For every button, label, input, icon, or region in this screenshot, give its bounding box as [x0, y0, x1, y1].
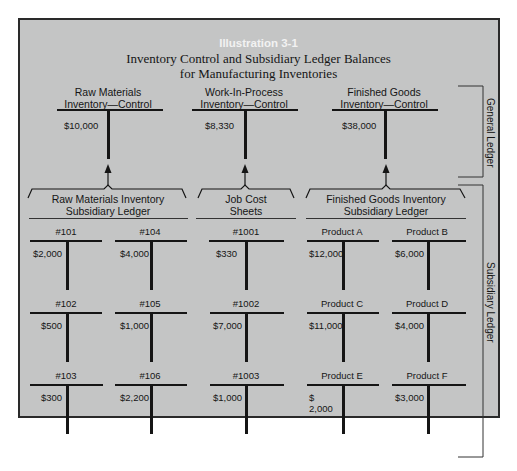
account-balance: $12,000	[309, 248, 343, 259]
t-account-stem	[66, 240, 69, 290]
t-account-stem	[150, 312, 153, 362]
t-account-stem	[150, 240, 153, 290]
account-balance: $2,000	[33, 248, 62, 259]
t-account-stem	[245, 240, 248, 290]
account-name: #104	[110, 226, 190, 237]
account-name: Product E	[302, 370, 382, 381]
account-balance: $2,200	[120, 392, 149, 403]
account-balance: $7,000	[213, 320, 242, 331]
account-balance: $330	[216, 248, 237, 259]
account-balance: $500	[41, 320, 62, 331]
t-account-stem	[66, 312, 69, 362]
t-account-stem	[427, 240, 430, 290]
subsidiary-ledger-label: Subsidiary Ledger	[485, 262, 496, 343]
account-name: #1003	[206, 370, 286, 381]
account-name: #103	[26, 370, 106, 381]
group-divider	[306, 218, 466, 219]
general-ledger-label: General Ledger	[485, 98, 496, 168]
account-balance: $300	[41, 392, 62, 403]
account-name: #1002	[206, 298, 286, 309]
account-name: #106	[110, 370, 190, 381]
t-account-stem	[427, 384, 430, 434]
account-name: Product D	[387, 298, 467, 309]
subsidiary-group-finished-goods: Finished Goods InventorySubsidiary Ledge…	[306, 193, 466, 217]
group-divider	[29, 218, 188, 219]
account-balance: $3,000	[395, 392, 424, 403]
account-name: #102	[26, 298, 106, 309]
account-balance: $1,000	[213, 392, 242, 403]
subsidiary-group-job-cost: Job CostSheets	[196, 193, 296, 217]
account-name: Product B	[387, 226, 467, 237]
account-name: #101	[26, 226, 106, 237]
account-balance: $4,000	[120, 248, 149, 259]
account-balance: $4,000	[395, 320, 424, 331]
account-balance: $1,000	[120, 320, 149, 331]
t-account-stem	[150, 384, 153, 434]
t-account-stem	[66, 384, 69, 434]
account-name: #1001	[206, 226, 286, 237]
t-account-stem	[427, 312, 430, 362]
account-name: #105	[110, 298, 190, 309]
account-balance: $6,000	[395, 248, 424, 259]
account-balance: $11,000	[309, 320, 343, 331]
account-balance: $ 2,000	[309, 392, 333, 414]
account-name: Product C	[302, 298, 382, 309]
t-account-stem	[245, 384, 248, 434]
subsidiary-group-raw-materials: Raw Materials InventorySubsidiary Ledger	[28, 193, 188, 217]
account-name: Product A	[302, 226, 382, 237]
t-account-stem	[245, 312, 248, 362]
t-account-stem	[342, 384, 345, 434]
account-name: Product F	[387, 370, 467, 381]
group-divider	[196, 218, 296, 219]
